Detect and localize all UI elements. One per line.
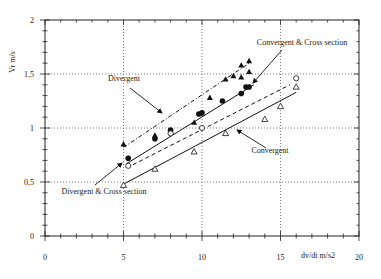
x-tick-label: 0 (43, 253, 47, 262)
y-tick-label: 0 (30, 232, 34, 241)
circle-open-marker (126, 163, 131, 168)
triangle-filled-marker (238, 62, 244, 67)
data-points (121, 58, 300, 188)
annotation-label: Divergent (108, 74, 141, 83)
triangle-open-marker (262, 116, 268, 121)
y-tick-label: 0,5 (24, 178, 34, 187)
scatter-chart: 0510152000,511,52 DivergentDivergent & C… (0, 0, 381, 279)
fit-line (124, 63, 250, 147)
annotation-label: Divergent & Cross section (62, 187, 147, 196)
circle-filled-marker (152, 136, 158, 142)
circle-open-marker (168, 131, 173, 136)
triangle-filled-marker (121, 141, 127, 146)
triangle-filled-marker (207, 95, 213, 100)
triangle-open-marker (191, 149, 197, 154)
x-axis-label: dv/dt m/s2 (301, 251, 335, 260)
triangle-filled-marker (238, 74, 244, 79)
triangle-filled-marker (246, 58, 252, 63)
circle-filled-marker (220, 98, 226, 104)
triangle-filled-marker (246, 69, 252, 74)
axes: 0510152000,511,52 (24, 16, 363, 262)
triangle-open-marker (293, 84, 299, 89)
circle-filled-marker (238, 91, 244, 97)
annotation-label: Convergent (251, 146, 289, 155)
circle-filled-marker (125, 155, 131, 161)
annotations: DivergentDivergent & Cross sectionConver… (62, 38, 348, 196)
x-tick-label: 5 (122, 253, 126, 262)
triangle-filled-marker (223, 76, 229, 81)
annotation-arrow (130, 88, 162, 113)
y-tick-label: 2 (30, 16, 34, 25)
circle-open-marker (294, 76, 299, 81)
x-tick-label: 20 (355, 253, 363, 262)
x-tick-label: 10 (198, 253, 206, 262)
circle-open-marker (199, 125, 204, 130)
fit-lines (124, 63, 297, 184)
annotation-label: Convergent & Cross section (257, 38, 347, 47)
circle-filled-marker (199, 110, 205, 116)
fit-line (127, 85, 254, 164)
y-tick-label: 1,5 (24, 70, 34, 79)
circle-filled-marker (246, 84, 252, 90)
y-axis-label: Vr m/s (8, 51, 17, 73)
x-tick-label: 15 (277, 253, 285, 262)
triangle-open-marker (278, 103, 284, 108)
annotation-arrow (253, 50, 282, 83)
fit-line (124, 92, 297, 184)
y-tick-label: 1 (30, 124, 34, 133)
